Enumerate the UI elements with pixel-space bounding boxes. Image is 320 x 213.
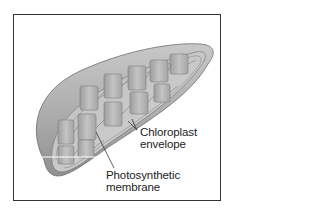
label-envelope-line1: Chloroplast bbox=[140, 126, 197, 138]
label-envelope-line2: envelope bbox=[140, 138, 197, 150]
label-membrane-line1: Photosynthetic bbox=[106, 169, 180, 181]
label-membrane-line2: membrane bbox=[106, 181, 180, 193]
label-photosynthetic-membrane: Photosynthetic membrane bbox=[106, 169, 180, 193]
label-chloroplast-envelope: Chloroplast envelope bbox=[140, 126, 197, 150]
